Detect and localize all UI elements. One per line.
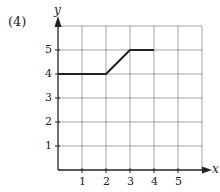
x-axis-label: x [212,163,219,175]
x-axis-arrow-icon [202,167,212,174]
x-tick-label: 4 [151,176,158,187]
y-tick-label: 4 [45,68,52,79]
y-axis-label: y [54,4,61,16]
y-tick-label: 5 [45,44,52,55]
ticks [55,50,178,173]
x-tick-label: 2 [103,176,110,187]
y-axis-arrow-icon [55,16,62,27]
y-tick-label: 2 [45,116,52,127]
x-tick-label: 3 [127,176,134,187]
y-tick-label: 3 [45,92,52,103]
axes [55,16,213,174]
x-tick-label: 5 [175,176,182,187]
chart [0,0,220,192]
x-tick-label: 1 [79,176,86,187]
y-tick-label: 1 [45,140,52,151]
grid [58,26,202,170]
